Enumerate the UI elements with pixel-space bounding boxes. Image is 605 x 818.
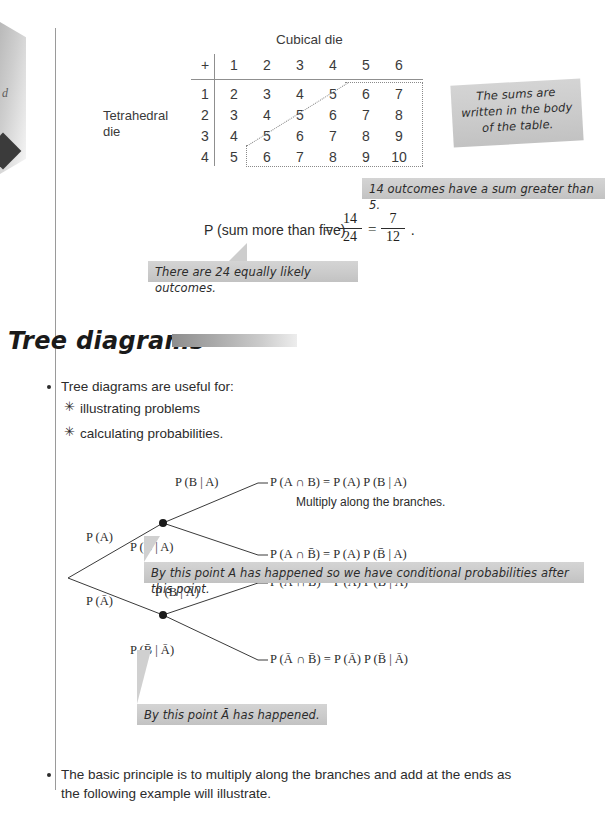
callout-tail	[137, 650, 151, 704]
bullet-sub1-text: illustrating problems	[80, 399, 200, 418]
table-row-header: 4	[193, 149, 217, 165]
table-col-header: 5	[354, 57, 378, 73]
table-cell: 5	[222, 149, 246, 165]
table-cell: 10	[385, 149, 413, 165]
table-col-header: 2	[255, 57, 279, 73]
bullet-intro-text: Tree diagrams are useful for:	[61, 377, 234, 396]
outcome-a-and-b: P (A ∩ B) = P (A) P (B | A)	[270, 475, 407, 490]
table-row-header: 2	[193, 107, 217, 123]
table-cell: 3	[222, 107, 246, 123]
outcome-abar-and-bbar: P (Ā ∩ B̄) = P (Ā) P (B̄ | Ā)	[270, 652, 408, 667]
worksheet-page: d Cubical die Tetrahedral die + 1 2 3 4 …	[0, 0, 605, 818]
closing-line-2: the following example will illustrate.	[61, 784, 271, 803]
table-cell: 7	[354, 107, 378, 123]
table-cell: 6	[288, 128, 312, 144]
fraction-1-denominator: 24	[340, 229, 360, 245]
fraction-2-numerator: 7	[383, 211, 403, 227]
tree-node-a	[159, 519, 167, 527]
equals-sign-2: =	[368, 221, 376, 238]
table-cell: 5	[288, 107, 312, 123]
table-cell: 5	[321, 86, 345, 102]
trailing-period: .	[411, 223, 415, 239]
branch-label-pa: P (A)	[86, 530, 113, 545]
table-col-header: 3	[288, 57, 312, 73]
closing-line-1: The basic principle is to multiply along…	[61, 765, 511, 784]
table-column-caption: Cubical die	[276, 32, 343, 47]
heading-accent-bar	[172, 334, 297, 347]
table-cell: 7	[288, 149, 312, 165]
callout-fourteen-outcomes-text: 14 outcomes have a sum greater than 5.	[369, 182, 594, 212]
callout-fourteen-outcomes: 14 outcomes have a sum greater than 5.	[362, 178, 605, 199]
table-cell: 4	[255, 107, 279, 123]
edge-tab-letter: d	[2, 86, 18, 101]
callout-sums-in-body-text: The sums are written in the body of the …	[461, 85, 573, 135]
table-cell: 8	[354, 128, 378, 144]
table-row-caption-line2: die	[103, 124, 120, 140]
table-cell: 7	[387, 86, 411, 102]
bullet-dot-icon	[47, 773, 51, 777]
multiply-note: Multiply along the branches.	[296, 495, 445, 509]
table-cell: 4	[222, 128, 246, 144]
table-cell: 8	[387, 107, 411, 123]
asterisk-icon: ✳	[64, 400, 75, 414]
callout-abar-happened-text: By this point Ā has happened.	[144, 708, 320, 722]
bullet-dot-icon	[47, 385, 51, 389]
tree-diagram: P (A) P (Ā) P (B | A) P (B̄ | A) P (B |…	[0, 455, 605, 715]
table-col-header: 1	[222, 57, 246, 73]
table-cell: 8	[321, 149, 345, 165]
table-row-header: 1	[193, 86, 217, 102]
table-cell: 9	[354, 149, 378, 165]
table-cell: 6	[321, 107, 345, 123]
table-cell: 2	[222, 86, 246, 102]
table-cell: 9	[387, 128, 411, 144]
fraction-2-denominator: 12	[383, 229, 403, 245]
asterisk-icon: ✳	[64, 425, 75, 439]
tree-node-abar	[159, 611, 167, 619]
table-header-rule	[191, 79, 423, 80]
fraction-1-numerator: 14	[340, 211, 360, 227]
table-cell: 5	[255, 128, 279, 144]
table-col-header: 4	[321, 57, 345, 73]
branch-label-pabar: P (Ā)	[86, 594, 113, 609]
table-cell: 7	[321, 128, 345, 144]
table-row-caption-line1: Tetrahedral	[103, 108, 168, 124]
callout-tail	[229, 243, 247, 261]
table-col-header: 6	[387, 57, 411, 73]
table-cell: 6	[354, 86, 378, 102]
table-cell: 6	[255, 149, 279, 165]
callout-sums-in-body: The sums are written in the body of the …	[450, 78, 583, 147]
outcome-a-and-bbar: P (A ∩ B̄) = P (A) P (B̄ | A)	[270, 547, 407, 562]
callout-tail	[144, 536, 160, 562]
equals-sign-1: =	[324, 221, 332, 238]
table-row-header: 3	[193, 128, 217, 144]
bullet-sub2-text: calculating probabilities.	[80, 424, 223, 443]
branch-label-b-given-a: P (B | A)	[175, 475, 218, 490]
table-cell: 3	[255, 86, 279, 102]
callout-twentyfour-outcomes-text: There are 24 equally likely outcomes.	[155, 265, 311, 295]
table-cell: 4	[288, 86, 312, 102]
